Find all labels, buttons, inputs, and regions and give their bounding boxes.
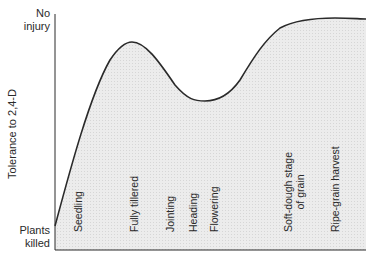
y-label-plants-killed: Plants killed [8, 224, 50, 250]
stage-jointing: Jointing [164, 196, 176, 232]
y-label-killed: killed [8, 237, 50, 250]
stage-seedling: Seedling [72, 191, 84, 232]
stage-fully-tillered: Fully tillered [128, 176, 140, 232]
y-label-injury: injury [8, 20, 50, 33]
y-axis-title: Tolerance to 2,4-D [6, 84, 18, 184]
y-label-plants: Plants [8, 224, 50, 237]
stage-heading: Heading [187, 193, 199, 232]
stage-ripe-grain-harvest: Ripe-grain harvest [329, 146, 341, 232]
stage-soft-dough: Soft-dough stage of grain [282, 152, 306, 232]
stage-soft-dough-line1: Soft-dough stage [282, 152, 294, 232]
stage-flowering: Flowering [208, 186, 220, 232]
stage-soft-dough-line2: of grain [294, 152, 306, 232]
y-label-no-injury: No injury [8, 7, 50, 33]
y-label-no: No [8, 7, 50, 20]
